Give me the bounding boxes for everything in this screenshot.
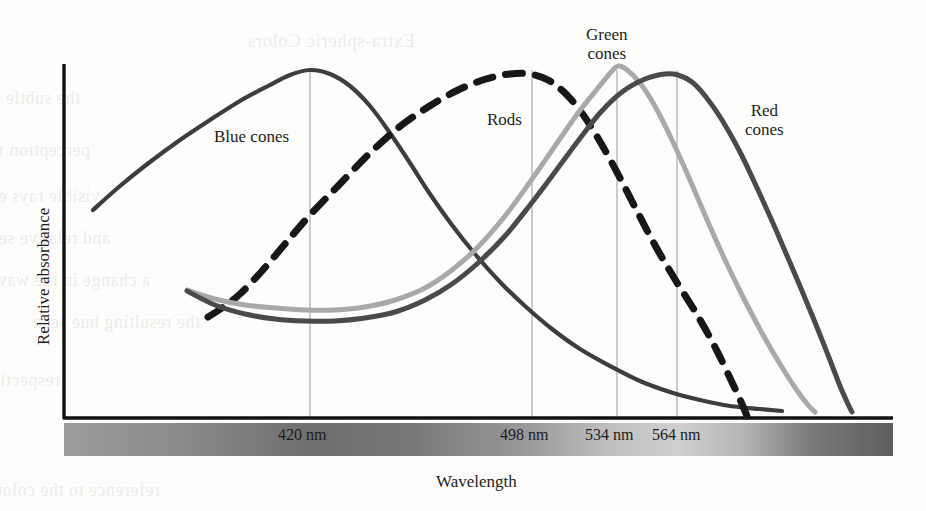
spectral-absorbance-plot bbox=[0, 0, 926, 511]
tick-label-498-nm: 498 nm bbox=[500, 426, 548, 444]
curve-series-group bbox=[93, 66, 852, 416]
curve-label-green-cones-line1: Green bbox=[586, 25, 628, 44]
visible-spectrum-bar bbox=[64, 423, 893, 456]
curve-label-red-cones-line1: Red bbox=[745, 101, 784, 120]
x-axis-label: Wavelength bbox=[436, 472, 517, 491]
tick-label-420-nm: 420 nm bbox=[278, 426, 326, 444]
curve-label-green-cones-line2: cones bbox=[586, 44, 628, 63]
curve-label-red-cones-line2: cones bbox=[745, 120, 784, 139]
curve-blue-cones bbox=[93, 70, 782, 411]
curve-label-green-cones: Green cones bbox=[586, 25, 628, 63]
tick-label-564-nm: 564 nm bbox=[652, 426, 700, 444]
curve-label-red-cones: Red cones bbox=[745, 101, 784, 139]
y-axis-label: Relative absorbance bbox=[34, 208, 53, 345]
curve-label-blue-cones: Blue cones bbox=[214, 127, 289, 146]
curve-label-rods: Rods bbox=[487, 110, 522, 129]
tick-label-534-nm: 534 nm bbox=[585, 426, 633, 444]
absorbance-spectrum-figure: Extra-spheric Colorsthe subtle shade of … bbox=[0, 0, 926, 511]
